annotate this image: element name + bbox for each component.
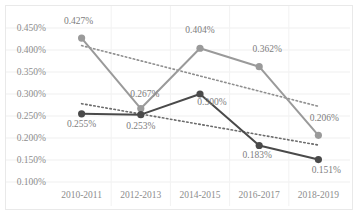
data-label: 0.267%: [122, 89, 168, 99]
line-chart: 0.450%0.400%0.350%0.300%0.250%0.200%0.15…: [0, 0, 359, 221]
data-point-marker: [256, 142, 263, 149]
data-label: 0.255%: [59, 119, 105, 129]
data-label: 0.206%: [301, 113, 347, 123]
data-point-marker: [78, 35, 85, 42]
data-label: 0.151%: [303, 165, 349, 175]
gridlines: [6, 6, 350, 206]
data-label: 0.404%: [177, 25, 223, 35]
data-label: 0.300%: [189, 97, 235, 107]
x-axis-tick-label: 2018-2019: [287, 190, 349, 200]
data-label: 0.253%: [118, 121, 164, 131]
y-axis-tick-label: 0.450%: [2, 23, 46, 33]
y-axis-tick-label: 0.250%: [2, 111, 46, 121]
y-axis-tick-label: 0.350%: [2, 67, 46, 77]
data-point-marker: [137, 105, 144, 112]
data-point-marker: [137, 111, 144, 118]
y-axis-tick-label: 0.100%: [2, 177, 46, 187]
data-label: 0.427%: [56, 16, 102, 26]
data-point-marker: [315, 132, 322, 139]
y-axis-tick-label: 0.150%: [2, 155, 46, 165]
x-axis-tick-label: 2014-2015: [169, 190, 231, 200]
x-axis-tick-label: 2010-2011: [51, 190, 113, 200]
data-label: 0.183%: [234, 150, 280, 160]
x-axis-tick-label: 2012-2013: [110, 190, 172, 200]
data-point-marker: [78, 110, 85, 117]
y-axis-tick-label: 0.300%: [2, 89, 46, 99]
data-point-marker: [256, 63, 263, 70]
data-point-marker: [315, 156, 322, 163]
data-label: 0.362%: [244, 44, 290, 54]
y-axis-tick-label: 0.400%: [2, 45, 46, 55]
y-axis-tick-label: 0.200%: [2, 133, 46, 143]
x-axis-tick-label: 2016-2017: [228, 190, 290, 200]
data-point-marker: [196, 45, 203, 52]
